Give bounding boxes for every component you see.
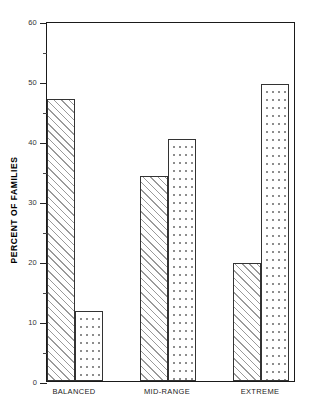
y-tick-mark	[40, 263, 47, 264]
y-tick-label: 30	[28, 198, 37, 207]
y-tick-mark	[40, 203, 47, 204]
y-tick-mark	[40, 323, 47, 324]
x-category-label: MID-RANGE	[144, 387, 190, 396]
y-tick-label: 40	[28, 138, 37, 147]
plot-area	[46, 22, 295, 382]
y-tick-mark	[40, 83, 47, 84]
bar-balanced-series-1-hatched	[47, 99, 75, 381]
chart-container: PERCENT OF FAMILIES 0102030405060 BALANC…	[0, 0, 311, 419]
plot-inner	[47, 23, 294, 381]
y-tick-label: 20	[28, 258, 37, 267]
y-tick-mark	[40, 383, 47, 384]
y-tick-label: 60	[28, 18, 37, 27]
bar-mid-range-series-2-dotted	[168, 139, 196, 381]
bar-extreme-series-2-dotted	[261, 84, 289, 381]
y-tick-label: 50	[28, 78, 37, 87]
y-axis-title: PERCENT OF FAMILIES	[4, 0, 24, 419]
y-tick-mark	[40, 143, 47, 144]
x-category-label: EXTREME	[241, 387, 280, 396]
y-tick-mark	[40, 23, 47, 24]
x-category-label: BALANCED	[52, 387, 95, 396]
bar-extreme-series-1-hatched	[233, 263, 261, 381]
bar-balanced-series-2-dotted	[75, 311, 103, 381]
y-tick-label: 10	[28, 318, 37, 327]
bar-mid-range-series-1-hatched	[140, 176, 168, 381]
y-tick-label: 0	[33, 378, 37, 387]
y-axis-title-label: PERCENT OF FAMILIES	[9, 156, 19, 263]
y-tick-mark-minor	[43, 53, 47, 54]
